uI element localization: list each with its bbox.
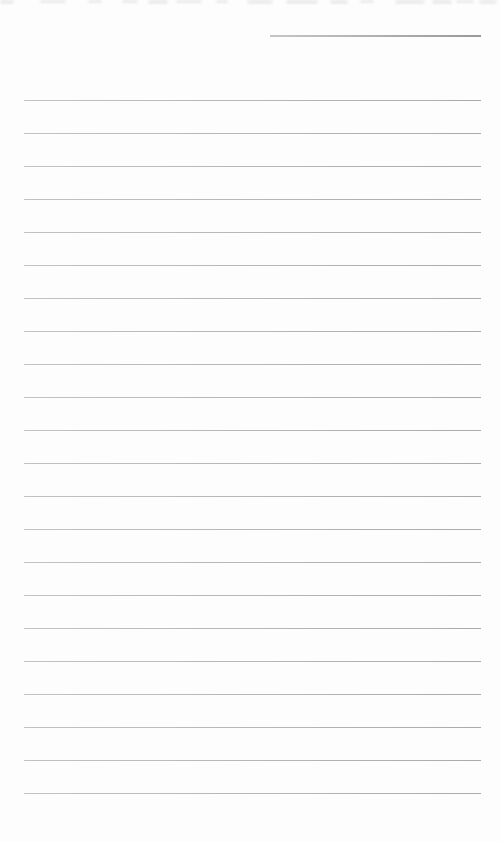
ruled-line: [24, 529, 481, 530]
ruled-line: [24, 232, 481, 233]
ruled-line: [24, 265, 481, 266]
notebook-page: [0, 0, 501, 842]
ruled-line: [24, 463, 481, 464]
ruled-line: [24, 628, 481, 629]
ruled-line: [24, 430, 481, 431]
ruled-lines-container: [0, 0, 501, 842]
ruled-line: [24, 727, 481, 728]
ruled-line: [24, 298, 481, 299]
ruled-line: [24, 364, 481, 365]
ruled-line: [24, 595, 481, 596]
ruled-line: [24, 760, 481, 761]
ruled-line: [24, 166, 481, 167]
ruled-line: [24, 562, 481, 563]
ruled-line: [24, 694, 481, 695]
ruled-line: [24, 331, 481, 332]
ruled-line: [24, 199, 481, 200]
ruled-line: [24, 793, 481, 794]
ruled-line: [24, 133, 481, 134]
ruled-line: [24, 397, 481, 398]
ruled-line: [24, 100, 481, 101]
ruled-line: [24, 496, 481, 497]
ruled-line: [24, 661, 481, 662]
